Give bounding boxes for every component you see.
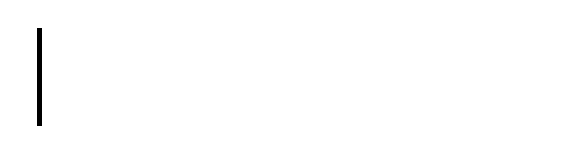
- fretboard-diagram: [0, 0, 571, 162]
- nut: [37, 28, 42, 126]
